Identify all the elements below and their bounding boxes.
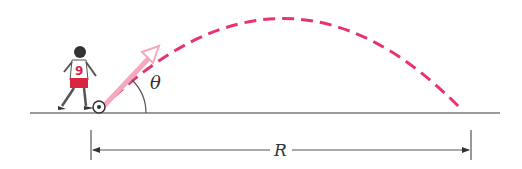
- angle-arc: [132, 80, 146, 113]
- angle-label: θ: [150, 72, 161, 93]
- projectile-diagram: θ 9 R: [0, 0, 522, 169]
- trajectory-curve: [100, 19, 462, 111]
- range-label: R: [273, 140, 287, 160]
- soccer-player: 9: [58, 46, 96, 110]
- svg-text:9: 9: [75, 64, 83, 78]
